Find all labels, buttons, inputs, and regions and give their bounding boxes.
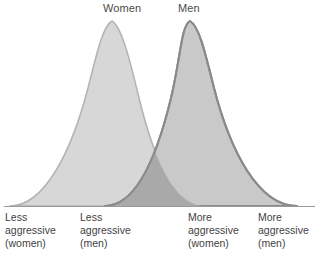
- axis-label-line-3: (women): [5, 237, 56, 250]
- curve-label-women: Women: [103, 2, 141, 15]
- axis-label-line-1: Less: [80, 211, 131, 224]
- axis-label-line-3: (men): [80, 237, 131, 250]
- axis-label-line-1: More: [258, 211, 309, 224]
- axis-label-less-aggressive-women: Less aggressive (women): [5, 211, 56, 251]
- distribution-chart-figure: Women Men Less aggressive (women) Less a…: [0, 0, 319, 254]
- axis-label-more-aggressive-men: More aggressive (men): [258, 211, 309, 251]
- curve-label-men: Men: [178, 2, 200, 15]
- axis-label-line-3: (women): [188, 237, 239, 250]
- axis-label-line-2: aggressive: [258, 224, 309, 237]
- axis-label-line-1: More: [188, 211, 239, 224]
- axis-label-line-1: Less: [5, 211, 56, 224]
- axis-label-more-aggressive-women: More aggressive (women): [188, 211, 239, 251]
- axis-label-line-3: (men): [258, 237, 309, 250]
- axis-label-line-2: aggressive: [188, 224, 239, 237]
- axis-label-line-2: aggressive: [80, 224, 131, 237]
- axis-label-less-aggressive-men: Less aggressive (men): [80, 211, 131, 251]
- axis-label-line-2: aggressive: [5, 224, 56, 237]
